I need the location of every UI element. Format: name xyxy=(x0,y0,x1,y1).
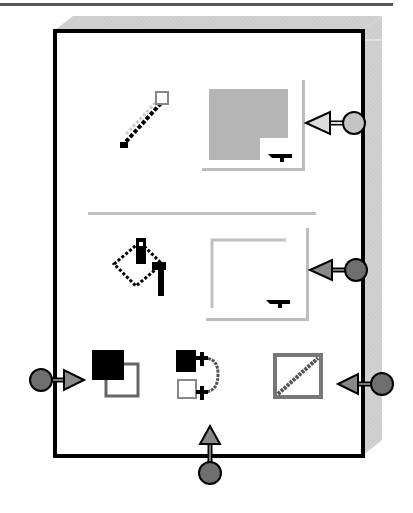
callout-swap-colors xyxy=(199,426,221,484)
callout-default-colors xyxy=(30,369,84,391)
callout-fill-swatch xyxy=(310,259,367,281)
callout-layer xyxy=(0,0,413,513)
callout-no-color xyxy=(338,373,393,395)
callout-stroke-swatch xyxy=(306,112,365,134)
